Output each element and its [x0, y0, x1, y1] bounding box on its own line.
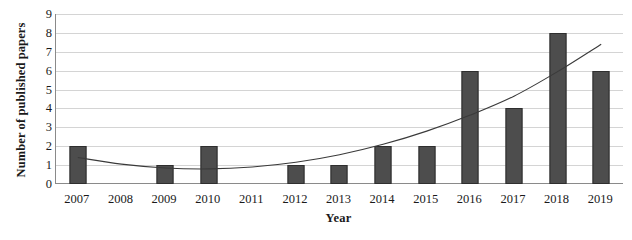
bar[interactable] [375, 146, 392, 184]
bar[interactable] [418, 146, 435, 184]
bar[interactable] [593, 71, 610, 184]
bar-slot [405, 14, 449, 184]
x-axis-tick-label: 2017 [500, 190, 525, 208]
bar[interactable] [69, 146, 86, 184]
x-axis-tick-label: 2015 [413, 190, 438, 208]
y-axis-title: Number of published papers [10, 0, 32, 200]
x-axis-tick-label: 2013 [326, 190, 351, 208]
bar[interactable] [287, 165, 304, 184]
y-axis-tick-label: 2 [34, 140, 52, 153]
bar-slot [143, 14, 187, 184]
y-axis-tick-label: 9 [34, 8, 52, 21]
bar[interactable] [505, 108, 522, 184]
bar-slot [230, 14, 274, 184]
bar-slot [187, 14, 231, 184]
bar[interactable] [331, 165, 348, 184]
bar-slot [318, 14, 362, 184]
x-axis-tick-label: 2010 [195, 190, 220, 208]
y-axis-tick-label: 4 [34, 102, 52, 115]
bar-slot [449, 14, 493, 184]
x-axis-tick-label: 2009 [152, 190, 177, 208]
plot-area [55, 14, 623, 184]
bar[interactable] [462, 71, 479, 184]
bar[interactable] [157, 165, 174, 184]
y-axis-tick-label: 6 [34, 64, 52, 77]
bar-slot [579, 14, 623, 184]
x-axis-title: Year [55, 211, 622, 226]
bar-slot [536, 14, 580, 184]
y-axis-tick-label: 7 [34, 46, 52, 59]
x-axis-tick-label: 2007 [64, 190, 89, 208]
bar[interactable] [549, 33, 566, 184]
x-axis-tick-label: 2011 [239, 190, 264, 208]
y-axis-tick-label: 3 [34, 121, 52, 134]
bar-slot [100, 14, 144, 184]
y-axis-tick-label: 1 [34, 159, 52, 172]
bars-layer [56, 14, 623, 184]
x-axis-tick-label: 2018 [544, 190, 569, 208]
bar-slot [492, 14, 536, 184]
bar[interactable] [200, 146, 217, 184]
y-axis-tick-label: 8 [34, 27, 52, 40]
bar-slot [361, 14, 405, 184]
x-axis-tick-label: 2012 [282, 190, 307, 208]
x-axis-tick-label: 2008 [108, 190, 133, 208]
bar-slot [274, 14, 318, 184]
x-axis-tick-label: 2014 [370, 190, 395, 208]
x-axis-tick-label: 2016 [457, 190, 482, 208]
x-axis-tick-labels: 2007200820092010201120122013201420152016… [55, 190, 622, 210]
x-axis-tick-label: 2019 [588, 190, 613, 208]
y-axis-tick-label: 5 [34, 83, 52, 96]
bar-chart: Number of published papers 0123456789 20… [0, 0, 632, 240]
bar-slot [56, 14, 100, 184]
y-axis-tick-labels: 0123456789 [34, 14, 52, 184]
y-axis-tick-label: 0 [34, 178, 52, 191]
